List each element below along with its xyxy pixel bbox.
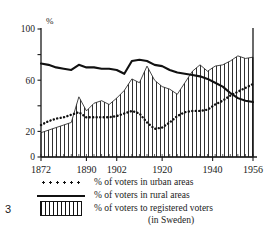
y-axis-tick-labels: 02060100	[21, 24, 36, 162]
y-axis-unit-label: %	[46, 16, 54, 26]
svg-text:1902: 1902	[107, 164, 127, 175]
svg-text:100: 100	[21, 24, 36, 34]
legend-item-turnout: % of voters to registered voters	[34, 202, 213, 215]
svg-text:1940: 1940	[203, 164, 223, 175]
chart-legend: % of voters in urban areas % of voters i…	[0, 176, 270, 242]
svg-text:0: 0	[30, 152, 35, 162]
x-axis-tick-labels: 187218901902192019401956	[31, 164, 263, 175]
chart-plot-area: 02060100 187218901902192019401956 %	[0, 0, 270, 175]
svg-text:1890: 1890	[76, 164, 96, 175]
svg-text:1956: 1956	[243, 164, 263, 175]
hatched-box-swatch	[34, 202, 88, 215]
legend-label-urban: % of voters in urban areas	[88, 177, 193, 188]
figure-container: 3 02060100 187218901902192019401956 % % …	[0, 0, 270, 242]
legend-item-urban: % of voters in urban areas	[34, 176, 193, 189]
turnout-hatched-area	[41, 56, 253, 157]
svg-text:1920: 1920	[152, 164, 172, 175]
legend-label-rural: % of voters in rural areas	[88, 190, 190, 201]
svg-text:20: 20	[26, 127, 36, 137]
legend-label-turnout: % of voters to registered voters	[88, 203, 213, 214]
svg-text:60: 60	[26, 76, 36, 86]
voter-turnout-line-chart: 02060100 187218901902192019401956 %	[0, 0, 270, 175]
dotted-line-swatch	[34, 176, 88, 189]
svg-text:1872: 1872	[31, 164, 51, 175]
legend-note: (in Sweden)	[148, 215, 194, 225]
